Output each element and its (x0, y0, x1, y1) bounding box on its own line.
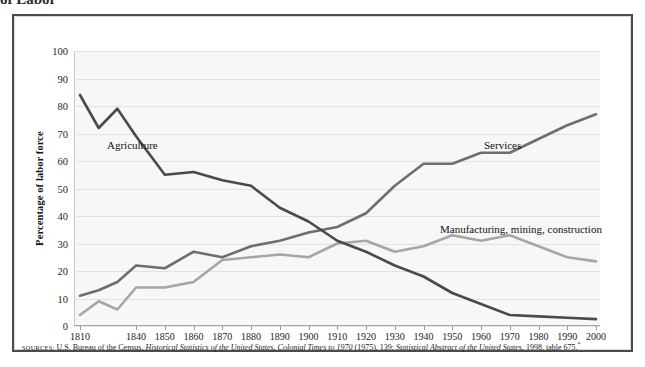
series-label-agriculture: Agriculture (107, 139, 158, 151)
y-tick-label-40: 40 (58, 211, 69, 222)
source-part1: U.S. Bureau of the Census, (55, 343, 146, 352)
series-label-manufacturing: Manufacturing, mining, construction (440, 223, 602, 235)
source-footnote-marker: * (577, 341, 580, 347)
line-agriculture (80, 95, 596, 319)
chart-frame: Percentage of labor force 01020304050607… (12, 14, 633, 352)
x-tick-1930 (395, 326, 396, 330)
cutoff-title-remnant: of Labor (0, 0, 300, 5)
x-tick-1910 (337, 326, 338, 330)
source-italic2: Statistical Abstract of the United State… (396, 343, 522, 352)
source-part2: (1975), 139; (353, 343, 397, 352)
x-tick-1890 (280, 326, 281, 330)
x-tick-1960 (481, 326, 482, 330)
y-tick-label-100: 100 (52, 46, 68, 57)
x-tick-1870 (222, 326, 223, 330)
y-tick-label-0: 0 (63, 321, 68, 332)
x-tick-1840 (136, 326, 137, 330)
y-tick-label-50: 50 (58, 183, 69, 194)
x-tick-1920 (366, 326, 367, 330)
x-tick-1990 (567, 326, 568, 330)
source-prefix: SOURCES: (22, 344, 55, 351)
x-tick-2000 (596, 326, 597, 330)
x-tick-1970 (510, 326, 511, 330)
y-tick-label-70: 70 (58, 128, 69, 139)
figure-container: of Labor Percentage of labor force 01020… (0, 0, 645, 367)
source-part3: , 1998, table 675. (522, 343, 578, 352)
source-note: SOURCES: U.S. Bureau of the Census, Hist… (22, 341, 622, 352)
plot-area: 0102030405060708090100 18101840185018601… (74, 51, 600, 326)
x-tick-1950 (452, 326, 453, 330)
x-tick-1880 (251, 326, 252, 330)
x-tick-1940 (424, 326, 425, 330)
line-manufacturing (80, 235, 596, 315)
y-tick-label-80: 80 (58, 101, 69, 112)
y-tick-label-10: 10 (58, 293, 69, 304)
series-lines (74, 51, 600, 326)
y-tick-label-60: 60 (58, 156, 69, 167)
y-tick-label-90: 90 (58, 73, 69, 84)
y-tick-label-30: 30 (58, 238, 69, 249)
source-italic1: Historical Statistics of the United Stat… (145, 343, 352, 352)
x-tick-1900 (309, 326, 310, 330)
x-tick-1850 (165, 326, 166, 330)
x-tick-1860 (194, 326, 195, 330)
y-tick-label-20: 20 (58, 266, 69, 277)
x-tick-1980 (539, 326, 540, 330)
x-tick-1810 (80, 326, 81, 330)
y-axis-label: Percentage of labor force (32, 51, 46, 326)
series-label-services: Services (484, 139, 521, 151)
